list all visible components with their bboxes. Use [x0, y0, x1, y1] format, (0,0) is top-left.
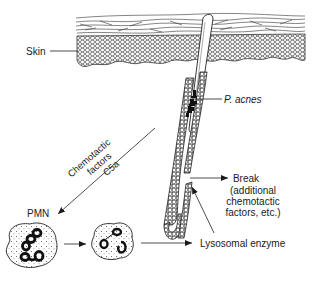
activated-pmn-cell	[92, 223, 134, 260]
lysosomal-enzyme-label: Lysosomal enzyme	[200, 238, 286, 249]
break-label-2: (additional	[230, 185, 276, 196]
p-acnes-label: P. acnes	[224, 94, 262, 105]
chemotactic-label: Chemotactic factors C5a	[65, 136, 127, 196]
stratum-corneum	[76, 13, 305, 33]
break-label-3: chemotactic	[226, 196, 279, 207]
break-label-4: factors, etc.)	[225, 207, 280, 218]
pmn-cell	[6, 223, 57, 268]
break-label-1: Break	[233, 173, 260, 184]
epidermis	[77, 34, 305, 67]
skin-label: Skin	[26, 46, 45, 57]
follicle-wall-right-lower	[178, 182, 192, 238]
lysosomal-to-break-arrow	[192, 187, 214, 233]
acne-pathogenesis-diagram: Skin P. acnes Chemotactic factors C5a Br…	[0, 0, 318, 284]
pmn-label: PMN	[27, 208, 49, 219]
